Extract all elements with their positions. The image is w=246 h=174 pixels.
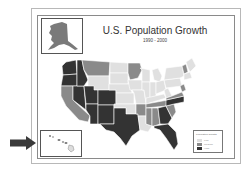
us-mainland-map [60, 58, 200, 156]
legend-swatch-medium [197, 143, 202, 146]
map-legend: Population Growth Low Medium High [193, 130, 223, 153]
map-title: U.S. Population Growth [100, 25, 210, 36]
legend-label-medium: Medium [204, 143, 213, 146]
alaska-inset [41, 18, 83, 54]
legend-label-high: High [204, 147, 209, 150]
legend-label-low: Low [204, 139, 209, 142]
map-subtitle: 1990 - 2000 [100, 38, 210, 43]
alaska-shape [42, 19, 82, 53]
legend-swatch-high [197, 147, 202, 150]
arrow-right-icon [10, 136, 36, 150]
legend-swatch-low [197, 139, 202, 142]
legend-title: Population Growth [196, 133, 217, 136]
